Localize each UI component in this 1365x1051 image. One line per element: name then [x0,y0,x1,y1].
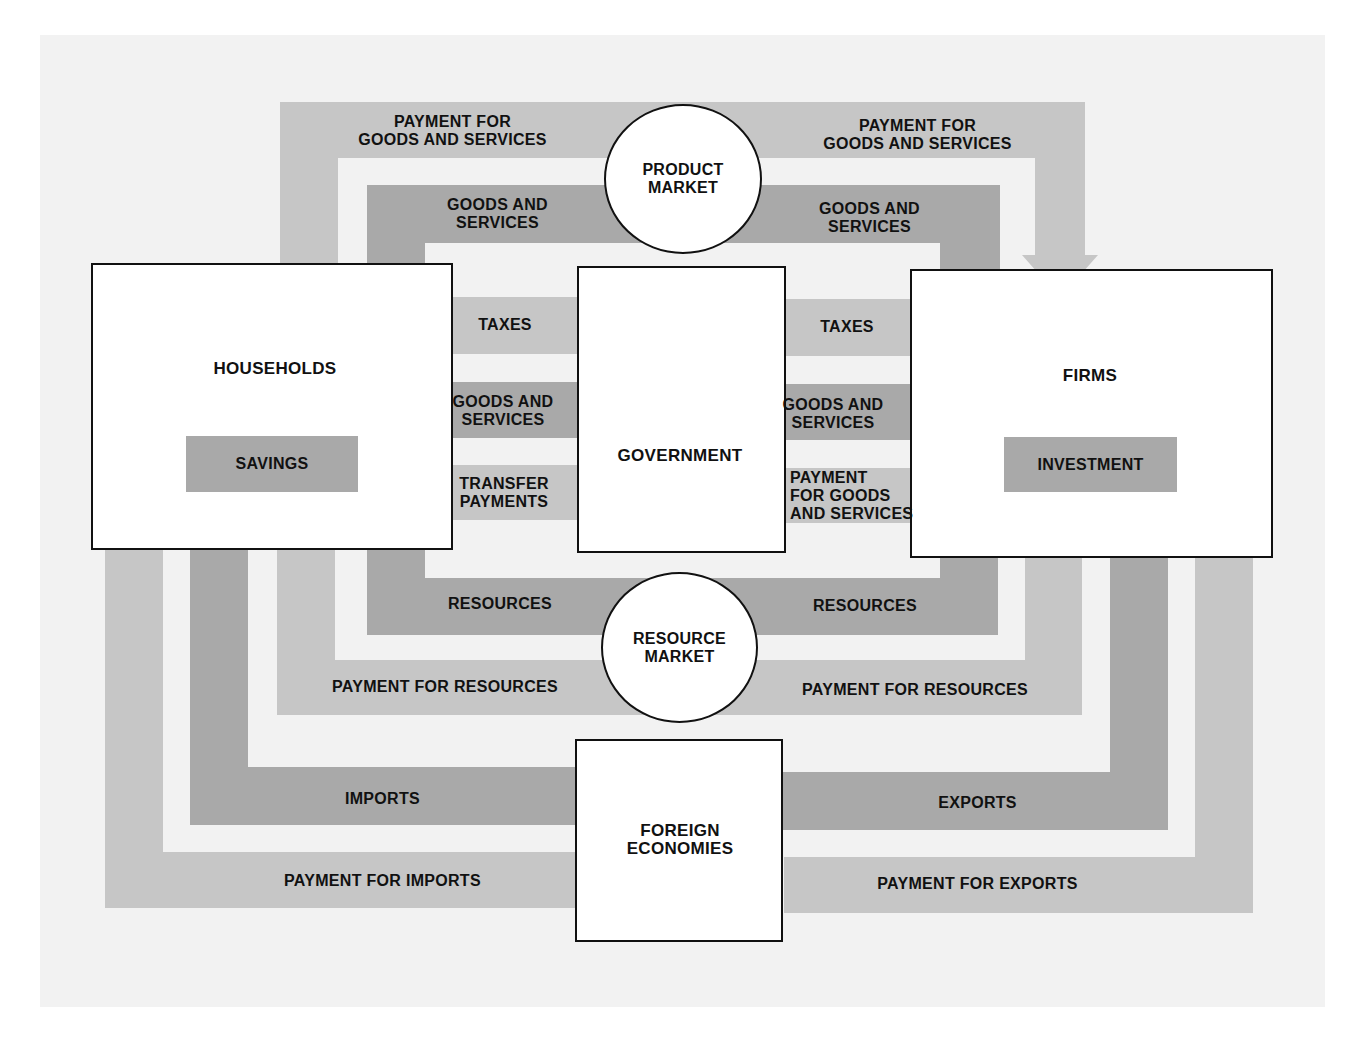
gov-goods-households-label: GOODS AND SERVICES [428,393,578,429]
households-box [91,263,453,550]
bottom-left-resources-label: RESOURCES [425,595,575,613]
savings-label: SAVINGS [236,455,309,473]
gov-payment-firms-label: PAYMENT FOR GOODS AND SERVICES [790,469,950,523]
investment-box: INVESTMENT [1004,437,1177,492]
savings-box: SAVINGS [186,436,358,492]
top-right-goods-label: GOODS AND SERVICES [792,200,947,236]
households-label: HOUSEHOLDS [180,360,370,378]
product-market-label: PRODUCT MARKET [642,161,723,197]
payment-exports-label: PAYMENT FOR EXPORTS [835,875,1120,893]
payment-imports-label: PAYMENT FOR IMPORTS [240,872,525,890]
top-left-goods-label: GOODS AND SERVICES [420,196,575,232]
top-left-payment-label: PAYMENT FOR GOODS AND SERVICES [330,113,575,149]
firms-box [910,269,1273,558]
government-label: GOVERNMENT [590,447,770,465]
resource-market-circle: RESOURCE MARKET [601,572,758,723]
gov-goods-firms-label: GOODS AND SERVICES [758,396,908,432]
firms-label: FIRMS [1020,367,1160,385]
bottom-right-resources-label: RESOURCES [790,597,940,615]
bottom-left-payment-resources-label: PAYMENT FOR RESOURCES [290,678,600,696]
firm-taxes-label: TAXES [797,318,897,336]
government-box [577,266,786,553]
imports-label: IMPORTS [320,790,445,808]
household-taxes-label: TAXES [455,316,555,334]
investment-label: INVESTMENT [1037,456,1143,474]
foreign-economies-label: FOREIGN ECONOMIES [600,822,760,858]
bottom-right-payment-resources-label: PAYMENT FOR RESOURCES [755,681,1075,699]
resource-market-label: RESOURCE MARKET [633,630,726,666]
product-market-circle: PRODUCT MARKET [604,104,762,254]
top-right-payment-label: PAYMENT FOR GOODS AND SERVICES [795,117,1040,153]
exports-label: EXPORTS [915,794,1040,812]
transfer-payments-label: TRANSFER PAYMENTS [434,475,574,511]
